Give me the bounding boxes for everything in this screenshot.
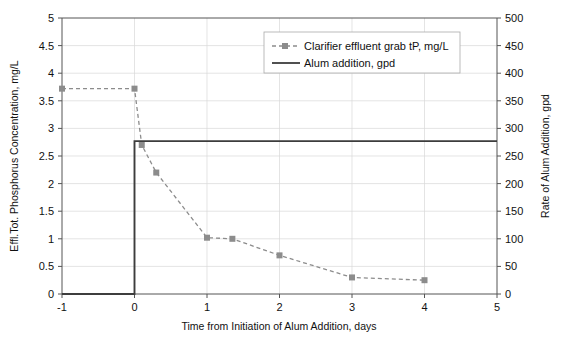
y2-axis-tick-label: 400 bbox=[505, 67, 523, 79]
y-axis-tick-label: 2.5 bbox=[39, 150, 54, 162]
y-axis-tick-label: 2 bbox=[48, 178, 54, 190]
y-axis-title: Effl.Tot. Phosphorus Concentration, mg/L bbox=[8, 60, 20, 251]
y2-axis-tick-label: 50 bbox=[505, 260, 517, 272]
data-point-marker bbox=[204, 235, 210, 241]
y2-axis-tick-label: 450 bbox=[505, 40, 523, 52]
y-axis-tick-labels: 00.511.522.533.544.55 bbox=[39, 12, 54, 300]
data-point-marker bbox=[132, 86, 138, 92]
y2-axis-ticks bbox=[497, 18, 501, 294]
chart-canvas: 00.511.522.533.544.55 050100150200250300… bbox=[0, 0, 562, 343]
x-axis-title: Time from Initiation of Alum Addition, d… bbox=[181, 320, 376, 332]
data-point-marker bbox=[422, 277, 428, 283]
y-axis-tick-label: 3.5 bbox=[39, 95, 54, 107]
y-axis-tick-label: 4 bbox=[48, 67, 54, 79]
y-axis-tick-label: 5 bbox=[48, 12, 54, 24]
data-point-marker bbox=[139, 142, 145, 148]
legend-label-alum: Alum addition, gpd bbox=[304, 57, 395, 69]
legend-label-clarifier: Clarifier effluent grab tP, mg/L bbox=[304, 40, 449, 52]
y2-axis-tick-labels: 050100150200250300350400450500 bbox=[505, 12, 523, 300]
y-axis-tick-label: 0 bbox=[48, 288, 54, 300]
chart-legend: Clarifier effluent grab tP, mg/L Alum ad… bbox=[264, 32, 460, 73]
x-axis-tick-label: 5 bbox=[494, 301, 500, 313]
y2-axis-tick-label: 350 bbox=[505, 95, 523, 107]
y-axis-tick-label: 0.5 bbox=[39, 260, 54, 272]
y-axis-tick-label: 1.5 bbox=[39, 205, 54, 217]
y2-axis-tick-label: 150 bbox=[505, 205, 523, 217]
y2-axis-title: Rate of Alum Addition, gpd bbox=[539, 94, 551, 218]
y2-axis-tick-label: 300 bbox=[505, 122, 523, 134]
data-point-marker bbox=[153, 170, 159, 176]
y-axis-ticks bbox=[58, 18, 62, 294]
y2-axis-tick-label: 500 bbox=[505, 12, 523, 24]
data-point-marker bbox=[277, 252, 283, 258]
data-point-marker bbox=[349, 274, 355, 280]
y2-axis-tick-label: 0 bbox=[505, 288, 511, 300]
x-axis-tick-label: 0 bbox=[131, 301, 137, 313]
legend-swatch-square-marker bbox=[282, 43, 288, 49]
y2-axis-tick-label: 250 bbox=[505, 150, 523, 162]
y-axis-tick-label: 1 bbox=[48, 233, 54, 245]
x-axis-tick-label: 2 bbox=[276, 301, 282, 313]
x-axis-tick-label: 4 bbox=[421, 301, 427, 313]
data-point-marker bbox=[59, 86, 65, 92]
x-axis-tick-label: 3 bbox=[349, 301, 355, 313]
y2-axis-tick-label: 100 bbox=[505, 233, 523, 245]
y-axis-tick-label: 3 bbox=[48, 122, 54, 134]
y-axis-tick-label: 4.5 bbox=[39, 40, 54, 52]
x-axis-tick-label: -1 bbox=[57, 301, 67, 313]
x-axis-tick-label: 1 bbox=[204, 301, 210, 313]
x-axis-tick-labels: -1012345 bbox=[57, 301, 500, 313]
y2-axis-tick-label: 200 bbox=[505, 178, 523, 190]
chart-container: 00.511.522.533.544.55 050100150200250300… bbox=[0, 0, 562, 343]
data-point-marker bbox=[229, 236, 235, 242]
